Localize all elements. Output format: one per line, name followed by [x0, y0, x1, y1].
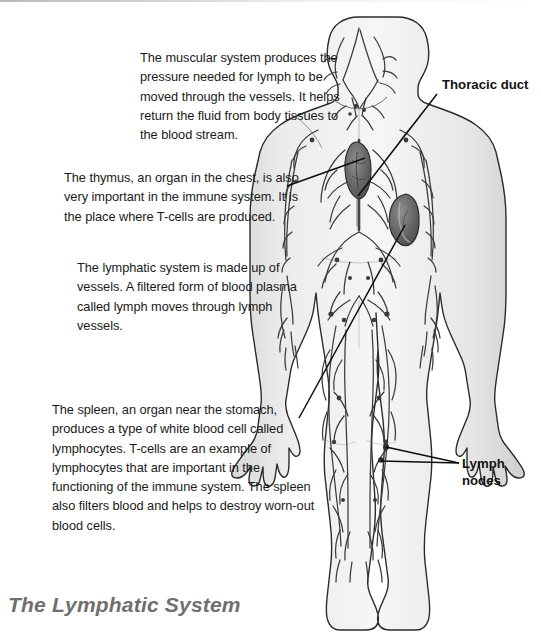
annotation-thymus: The thymus, an organ in the chest, is al…: [64, 168, 304, 226]
page-title: The Lymphatic System: [8, 593, 241, 617]
spleen-leader-line: [299, 225, 405, 418]
label-lymph-nodes-line2: nodes: [462, 472, 532, 489]
label-lymph-nodes-line1: Lymph: [462, 455, 532, 472]
annotation-spleen: The spleen, an organ near the stomach, p…: [52, 400, 322, 535]
annotation-muscular-system: The muscular system produces the pressur…: [140, 48, 340, 144]
diagram-page: The muscular system produces the pressur…: [0, 0, 541, 633]
lymph-nodes-leader-line-lower: [381, 461, 459, 463]
annotation-lymphatic-system: The lymphatic system is made up of vesse…: [77, 258, 307, 335]
lymph-nodes-leader-line-upper: [386, 447, 459, 463]
label-thoracic-duct: Thoracic duct: [442, 76, 528, 93]
label-lymph-nodes: Lymph nodes: [462, 455, 532, 489]
thoracic-duct-leader-line: [358, 94, 437, 196]
